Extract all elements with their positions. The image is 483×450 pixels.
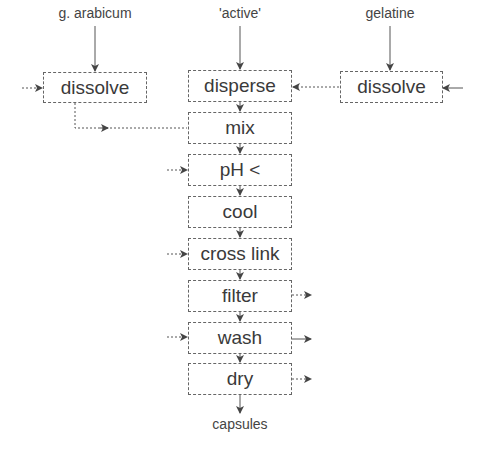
filter-box: filter	[188, 280, 292, 312]
cross-link-box: cross link	[188, 238, 292, 270]
dissolve-gum-box: dissolve	[43, 72, 147, 103]
ph-box: pH <	[188, 154, 292, 186]
input-active-label: 'active'	[200, 5, 280, 21]
disperse-box: disperse	[188, 70, 292, 102]
cool-box: cool	[188, 196, 292, 228]
input-g-arabicum-label: g. arabicum	[45, 5, 145, 21]
dissolve-gelatine-box: dissolve	[340, 71, 443, 103]
dry-box: dry	[188, 363, 292, 395]
input-gelatine-label: gelatine	[350, 5, 430, 21]
output-capsules-label: capsules	[195, 416, 285, 432]
mix-box: mix	[188, 112, 292, 144]
wash-box: wash	[188, 322, 292, 354]
